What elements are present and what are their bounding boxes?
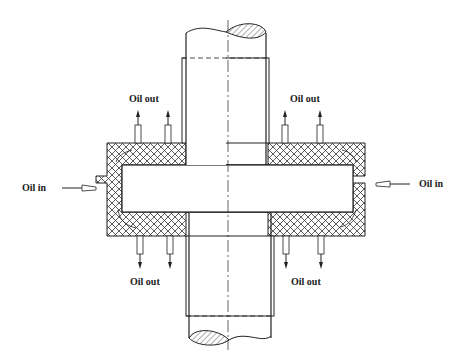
upper-shaft — [182, 24, 269, 165]
label-oil-in-left: Oil in — [22, 182, 47, 193]
oil-in-left-port — [62, 185, 96, 191]
label-oil-out-top-right: Oil out — [290, 93, 320, 104]
label-oil-out-bottom-left: Oil out — [130, 276, 160, 287]
label-oil-in-right: Oil in — [419, 178, 444, 189]
label-oil-out-top-left: Oil out — [129, 93, 159, 104]
shaft-housing-diagram: Oil in Oil in Oil out Oil out Oil out Oi… — [0, 0, 471, 358]
lower-shaft — [186, 212, 274, 345]
inner-cavity — [122, 165, 353, 212]
label-oil-out-bottom-right: Oil out — [291, 276, 321, 287]
oil-in-right-port — [376, 181, 410, 187]
housing — [96, 143, 365, 236]
